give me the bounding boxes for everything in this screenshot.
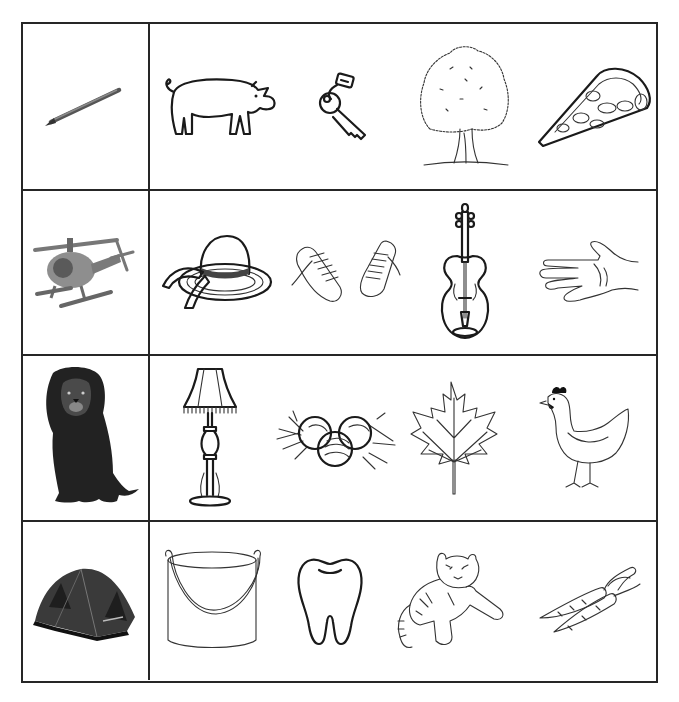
row-3: lion lamp — [23, 354, 656, 520]
tent-icon — [31, 561, 141, 641]
hat-icon — [155, 230, 275, 315]
option-hen[interactable]: hen — [510, 356, 660, 520]
lion-icon — [33, 363, 138, 513]
option-violin[interactable]: violin — [410, 191, 520, 354]
row-4: tent bucket to — [23, 520, 656, 680]
pizza-icon — [535, 62, 655, 152]
eggs-icon — [273, 403, 398, 473]
worksheet-table: pencil pig keys — [21, 22, 658, 683]
option-keys[interactable]: keys — [290, 24, 400, 189]
prompt-cell: helicopter — [23, 191, 150, 354]
row-2: helicopter hat — [23, 189, 656, 354]
options-row: lamp eggs — [150, 356, 656, 520]
option-sneakers[interactable]: sneakers — [280, 191, 410, 354]
tree-icon — [410, 39, 520, 174]
options-row: hat sneakers — [150, 191, 656, 354]
option-lamp[interactable]: lamp — [150, 356, 270, 520]
bucket-icon — [160, 546, 270, 656]
leaf-icon — [403, 378, 508, 498]
pencil-icon — [41, 82, 131, 132]
tooth-icon — [295, 554, 365, 649]
option-tiger[interactable]: tiger — [380, 522, 520, 680]
option-pizza[interactable]: pizza — [530, 24, 660, 189]
options-row: bucket tooth tiger — [150, 522, 656, 680]
option-tooth[interactable]: tooth — [280, 522, 380, 680]
row-1: pencil pig keys — [23, 24, 656, 189]
option-leaf[interactable]: leaf — [400, 356, 510, 520]
option-carrots[interactable]: carrots — [520, 522, 660, 680]
prompt-cell: tent — [23, 522, 150, 680]
option-hand[interactable]: hand — [520, 191, 660, 354]
pig-icon — [160, 72, 280, 142]
prompt-cell: pencil — [23, 24, 150, 189]
violin-icon — [435, 200, 495, 345]
option-eggs[interactable]: eggs — [270, 356, 400, 520]
carrots-icon — [538, 564, 643, 639]
options-row: pig keys t — [150, 24, 656, 189]
option-tree[interactable]: tree — [400, 24, 530, 189]
hen-icon — [538, 383, 633, 493]
lamp-icon — [180, 363, 240, 513]
keys-icon — [315, 69, 375, 144]
helicopter-icon — [31, 228, 141, 318]
option-hat[interactable]: hat — [150, 191, 280, 354]
tiger-icon — [390, 549, 510, 654]
hand-icon — [538, 240, 643, 305]
option-pig[interactable]: pig — [150, 24, 290, 189]
prompt-cell: lion — [23, 356, 150, 520]
option-bucket[interactable]: bucket — [150, 522, 280, 680]
sneakers-icon — [288, 233, 403, 313]
